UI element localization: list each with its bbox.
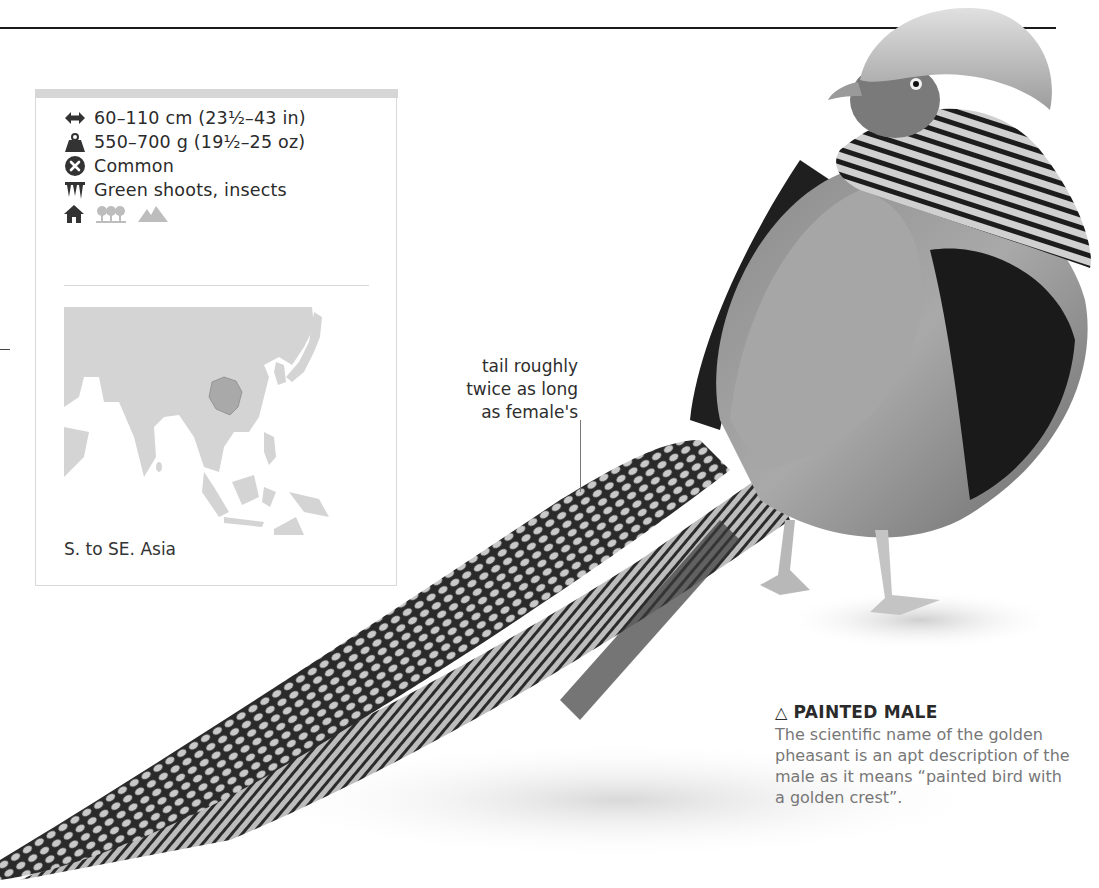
- mountains-icon: [138, 206, 168, 226]
- woodland-trees-icon: [96, 205, 126, 227]
- caption-title-text: PAINTED MALE: [794, 702, 938, 722]
- house-icon: [64, 205, 84, 227]
- annotation-line: as female's: [430, 401, 578, 424]
- species-info-box: 60–110 cm (23½–43 in) 550–700 g (19½–25 …: [35, 89, 397, 586]
- caption-title: △ PAINTED MALE: [775, 702, 1075, 722]
- annotation-line: tail roughly: [430, 355, 578, 378]
- fact-weight: 550–700 g (19½–25 oz): [64, 130, 306, 154]
- fact-diet-text: Green shoots, insects: [94, 180, 287, 200]
- diet-icon: [64, 180, 86, 200]
- fact-length: 60–110 cm (23½–43 in): [64, 106, 306, 130]
- tail-annotation: tail roughly twice as long as female's: [430, 355, 578, 424]
- caption-body: The scientific name of the golden pheasa…: [775, 724, 1075, 808]
- habitat-icons: [64, 203, 306, 229]
- edge-dash: [0, 349, 10, 350]
- fact-status: Common: [64, 154, 306, 178]
- fact-length-text: 60–110 cm (23½–43 in): [94, 108, 306, 128]
- triangle-marker-icon: △: [775, 703, 788, 722]
- weight-icon: [64, 132, 86, 152]
- fact-status-text: Common: [94, 156, 174, 176]
- fact-weight-text: 550–700 g (19½–25 oz): [94, 132, 305, 152]
- range-map: [64, 307, 354, 535]
- fact-diet: Green shoots, insects: [64, 178, 306, 202]
- info-box-top-bar: [35, 89, 398, 98]
- annotation-line: twice as long: [430, 378, 578, 401]
- caption: △ PAINTED MALE The scientific name of th…: [775, 702, 1075, 808]
- status-x-icon: [64, 156, 86, 176]
- fact-list: 60–110 cm (23½–43 in) 550–700 g (19½–25 …: [64, 106, 306, 229]
- top-rule: [0, 27, 1056, 29]
- range-label: S. to SE. Asia: [64, 539, 176, 559]
- annotation-leader-line: [580, 420, 581, 492]
- length-arrows-icon: [64, 108, 86, 128]
- info-box-divider: [64, 285, 369, 286]
